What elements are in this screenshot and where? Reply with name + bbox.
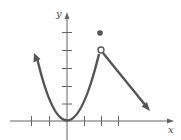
function-graph	[0, 0, 181, 140]
x-axis-label: x	[168, 125, 174, 135]
line-segment	[103, 53, 146, 106]
open-circle-point	[98, 47, 104, 53]
parabola-curve	[37, 54, 99, 121]
y-axis-label: y	[56, 9, 62, 19]
filled-point	[97, 30, 103, 36]
x-axis-arrow-icon	[167, 119, 174, 124]
y-axis-arrow-icon	[65, 12, 70, 19]
